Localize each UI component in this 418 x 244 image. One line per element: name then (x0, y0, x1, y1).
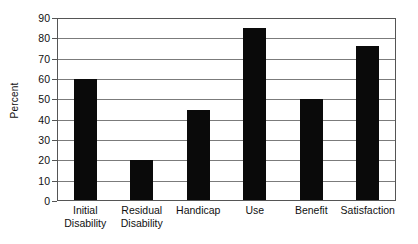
y-tick-label: 30 (24, 135, 50, 145)
y-tick-label: 60 (24, 74, 50, 84)
y-tick-mark (52, 120, 57, 121)
y-tick-label: 50 (24, 94, 50, 104)
bar-chart-figure: Percent 9080706050403020100 InitialDisab… (0, 0, 418, 244)
bar (356, 46, 379, 200)
y-tick-mark (52, 18, 57, 19)
y-tick-mark (52, 140, 57, 141)
y-tick-mark (52, 38, 57, 39)
y-tick-mark (52, 181, 57, 182)
x-tick-label: Satisfaction (318, 204, 418, 217)
y-tick-mark (52, 201, 57, 202)
y-tick-label: 80 (24, 33, 50, 43)
y-tick-label: 70 (24, 54, 50, 64)
x-axis-tick-labels: InitialDisabilityResidualDisabilityHandi… (57, 204, 396, 242)
bar (187, 110, 210, 201)
x-tick-label-line2: Disability (92, 217, 192, 230)
y-tick-mark (52, 160, 57, 161)
y-tick-mark (52, 79, 57, 80)
y-tick-label: 40 (24, 115, 50, 125)
y-tick-mark (52, 59, 57, 60)
bar (130, 160, 153, 200)
y-axis-title: Percent (9, 71, 20, 131)
bar (74, 79, 97, 200)
y-tick-label: 10 (24, 176, 50, 186)
x-tick-label-line1: Satisfaction (341, 204, 395, 216)
bar-series (57, 18, 396, 201)
bar (300, 99, 323, 200)
y-tick-mark (52, 99, 57, 100)
y-tick-label: 90 (24, 13, 50, 23)
y-axis-tick-labels: 9080706050403020100 (24, 18, 50, 201)
bar (243, 28, 266, 200)
y-tick-label: 20 (24, 155, 50, 165)
